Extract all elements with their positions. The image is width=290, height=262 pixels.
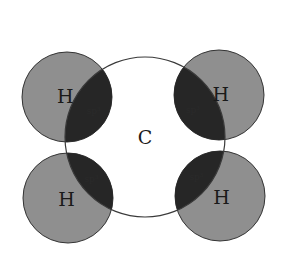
h-bottom-left-overlap-label: sp³ [85, 174, 99, 184]
h-bottom-left-label: H [58, 188, 75, 210]
h-bottom-right-overlap-label: sp³ [189, 172, 203, 182]
h-top-left-overlap-label: sp³ [87, 106, 101, 116]
carbon-label: C [138, 126, 153, 148]
h-top-left-label: H [57, 85, 74, 107]
methane-orbital-diagram: Hsp³Hsp³Hsp³Hsp³C [0, 0, 290, 262]
h-top-right-overlap-label: sp³ [186, 105, 200, 115]
h-top-right-label: H [212, 83, 229, 105]
h-bottom-right-label: H [213, 186, 230, 208]
diagram-canvas: Hsp³Hsp³Hsp³Hsp³C [0, 0, 290, 262]
